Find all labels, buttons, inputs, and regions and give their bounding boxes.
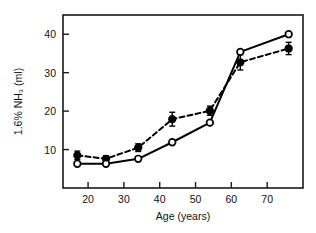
y-tick-label-10: 10 bbox=[44, 144, 56, 156]
datapoint-filled-circles-dashed-4 bbox=[207, 107, 214, 114]
datapoint-open-circles-solid-0 bbox=[74, 160, 81, 167]
datapoint-filled-circles-dashed-2 bbox=[135, 144, 142, 151]
x-axis-title: Age (years) bbox=[156, 210, 210, 222]
chart-figure: 10203040203040506070Age (years)1.6% NH₃ … bbox=[0, 0, 316, 233]
series-line-filled-circles-dashed bbox=[77, 48, 288, 158]
x-tick-label-60: 60 bbox=[226, 193, 238, 205]
y-tick-label-40: 40 bbox=[44, 28, 56, 40]
x-tick-label-40: 40 bbox=[154, 193, 166, 205]
datapoint-filled-circles-dashed-6 bbox=[285, 45, 292, 52]
datapoint-open-circles-solid-1 bbox=[103, 160, 110, 167]
y-axis-title: 1.6% NH₃ (ml) bbox=[12, 68, 24, 135]
plot-frame bbox=[63, 15, 303, 188]
line-chart: 10203040203040506070Age (years)1.6% NH₃ … bbox=[0, 0, 316, 233]
datapoint-filled-circles-dashed-0 bbox=[74, 152, 81, 159]
series-line-open-circles-solid bbox=[77, 34, 288, 164]
datapoint-open-circles-solid-6 bbox=[285, 31, 292, 38]
datapoint-open-circles-solid-2 bbox=[135, 155, 142, 162]
x-tick-label-50: 50 bbox=[190, 193, 202, 205]
datapoint-filled-circles-dashed-3 bbox=[169, 116, 176, 123]
y-tick-label-20: 20 bbox=[44, 105, 56, 117]
datapoint-open-circles-solid-4 bbox=[207, 119, 214, 126]
datapoint-open-circles-solid-5 bbox=[237, 49, 244, 56]
x-tick-label-30: 30 bbox=[118, 193, 130, 205]
y-tick-label-30: 30 bbox=[44, 67, 56, 79]
x-tick-label-20: 20 bbox=[82, 193, 94, 205]
x-tick-label-70: 70 bbox=[261, 193, 273, 205]
datapoint-filled-circles-dashed-5 bbox=[237, 59, 244, 66]
datapoint-open-circles-solid-3 bbox=[169, 139, 176, 146]
